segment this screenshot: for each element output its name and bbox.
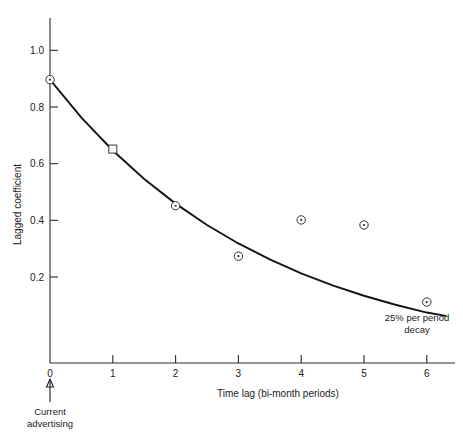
data-point-marker-dot [49,79,51,81]
y-axis-title: Lagged coefficient [12,164,23,245]
x-tick-label-2: 2 [173,368,179,379]
x-tick-label-5: 5 [361,368,367,379]
data-point-marker-dot [300,219,302,221]
chart-container: 1.0 0.8 0.6 0.4 0.2 Lagged coefficient 0… [0,0,463,435]
x-tick-label-6: 6 [424,368,430,379]
decay-annotation-line2: decay [404,324,430,335]
y-tick-label-0.2: 0.2 [30,272,44,283]
decay-annotation-line1: 25% per period [385,312,449,323]
y-tick-label-0.4: 0.4 [30,215,44,226]
data-point-markers [46,75,431,306]
x-tick-label-4: 4 [298,368,304,379]
x-tick-label-3: 3 [236,368,242,379]
x-tick-label-0: 0 [47,368,53,379]
data-point-marker-dot [363,224,365,226]
data-point-marker-dot [175,205,177,207]
decay-curve [50,80,446,316]
y-tick-label-0.6: 0.6 [30,158,44,169]
current-advertising-line2: advertising [27,418,73,429]
data-point-marker-square [109,145,117,153]
y-tick-label-1.0: 1.0 [30,45,44,56]
data-point-marker-dot [426,301,428,303]
current-advertising-arrow-icon [47,379,54,402]
y-tick-label-0.8: 0.8 [30,102,44,113]
current-advertising-line1: Current [34,406,66,417]
data-point-marker-dot [237,255,239,257]
x-axis-title: Time lag (bi-month periods) [217,388,339,399]
lagged-coefficient-chart: 1.0 0.8 0.6 0.4 0.2 Lagged coefficient 0… [0,0,463,435]
x-tick-label-1: 1 [110,368,116,379]
x-axis-ticks [113,355,427,363]
